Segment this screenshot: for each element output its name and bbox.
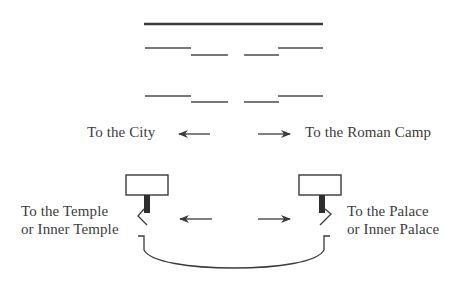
label-to-the-temple: To the Temple or Inner Temple (21, 202, 119, 238)
label-temple-line2: or Inner Temple (21, 220, 119, 238)
label-palace-line2: or Inner Palace (347, 220, 439, 238)
label-city-text: To the City (87, 124, 155, 140)
wing-row-2 (145, 96, 323, 102)
label-temple-line1: To the Temple (21, 202, 119, 220)
left-doorway-structure (126, 175, 168, 225)
wing-row-1 (145, 48, 323, 55)
label-roman-camp-text: To the Roman Camp (305, 124, 431, 140)
right-doorway-structure (299, 175, 341, 225)
label-to-the-palace: To the Palace or Inner Palace (347, 202, 439, 238)
label-to-the-city: To the City (87, 123, 155, 141)
bottom-passage-curve (138, 236, 330, 268)
label-palace-line1: To the Palace (347, 202, 439, 220)
stage-diagram (0, 0, 462, 288)
label-to-the-roman-camp: To the Roman Camp (305, 123, 431, 141)
